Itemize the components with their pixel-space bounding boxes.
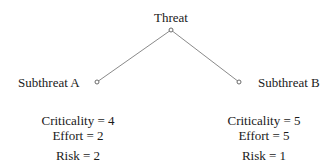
- subthreat-a-effort: Effort = 2: [41, 128, 114, 143]
- attack-tree-diagram: Threat Subthreat A Subthreat B Criticali…: [0, 0, 330, 166]
- subthreat-b-criticality: Criticality = 5: [227, 113, 300, 128]
- subthreat-b-effort: Effort = 5: [227, 128, 300, 143]
- subthreat-a-criticality: Criticality = 4: [41, 113, 114, 128]
- subthreat-b-node-icon: [237, 80, 241, 84]
- subthreat-a-metrics: Criticality = 4 Effort = 2 Risk = 2: [41, 113, 114, 163]
- subthreat-b-metrics: Criticality = 5 Effort = 5 Risk = 1: [227, 113, 300, 163]
- edge-root-to-subthreat-b: [171, 30, 239, 82]
- subthreat-a-risk: Risk = 2: [41, 148, 114, 163]
- subthreat-a-node-icon: [95, 80, 99, 84]
- root-node-icon: [169, 28, 173, 32]
- root-node-label: Threat: [154, 10, 188, 25]
- subthreat-b-risk: Risk = 1: [227, 148, 300, 163]
- subthreat-a-label: Subthreat A: [18, 75, 80, 90]
- edge-root-to-subthreat-a: [97, 30, 171, 82]
- subthreat-b-label: Subthreat B: [258, 75, 320, 90]
